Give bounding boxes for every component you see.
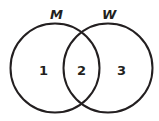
region-label-3: 3 (117, 63, 126, 78)
venn-diagram: M W 1 2 3 (0, 0, 159, 121)
region-label-1: 1 (39, 63, 48, 78)
region-label-2: 2 (77, 63, 86, 78)
circle-m (11, 24, 100, 113)
set-label-w: W (102, 7, 117, 22)
set-label-m: M (50, 7, 63, 22)
